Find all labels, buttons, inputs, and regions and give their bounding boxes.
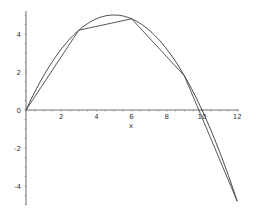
x-tick-label: 6 <box>129 113 134 121</box>
x-axis-label: x <box>129 122 133 130</box>
y-tick-label: 2 <box>17 69 21 77</box>
y-tick-label: 0 <box>17 107 21 115</box>
y-tick-label: 4 <box>17 31 22 39</box>
chart: -4-202424681012 x <box>0 0 254 215</box>
series-layer <box>26 15 237 201</box>
x-tick-label: 2 <box>59 113 63 121</box>
y-tick-label: -4 <box>14 183 22 191</box>
axes: -4-202424681012 <box>14 11 242 205</box>
y-tick-label: -2 <box>14 145 21 153</box>
x-tick-label: 4 <box>94 113 99 121</box>
curve-line <box>26 15 237 201</box>
x-tick-label: 12 <box>233 113 242 121</box>
x-tick-label: 8 <box>165 113 169 121</box>
